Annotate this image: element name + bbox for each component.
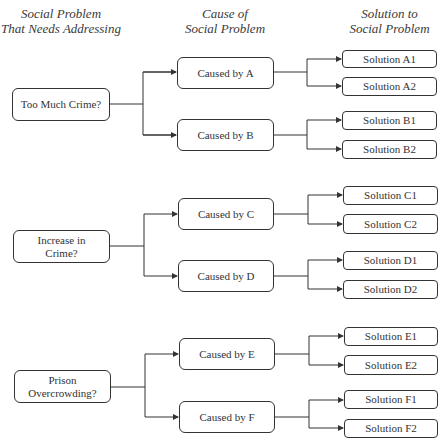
solution-box-a2[interactable]: Solution A2 bbox=[342, 77, 437, 96]
cause-box-d[interactable]: Caused by D bbox=[178, 260, 274, 292]
cause-box-a[interactable]: Caused by A bbox=[177, 57, 274, 89]
solution-label: Solution F2 bbox=[365, 422, 417, 435]
solution-label: Solution C2 bbox=[364, 218, 417, 231]
solution-box-f2[interactable]: Solution F2 bbox=[344, 419, 438, 438]
solution-box-f1[interactable]: Solution F1 bbox=[344, 390, 438, 409]
cause-label: Caused by B bbox=[197, 129, 253, 142]
cause-label: Caused by F bbox=[200, 411, 255, 424]
solution-label: Solution D2 bbox=[364, 283, 417, 296]
solution-box-c1[interactable]: Solution C1 bbox=[343, 186, 438, 205]
solution-label: Solution C1 bbox=[364, 189, 417, 202]
cause-label: Caused by E bbox=[199, 348, 255, 361]
solution-label: Solution A2 bbox=[363, 80, 416, 93]
cause-label: Caused by D bbox=[198, 270, 255, 283]
problem-box-too-much-crime[interactable]: Too Much Crime? bbox=[12, 88, 110, 121]
problem-label: Too Much Crime? bbox=[21, 98, 102, 111]
solution-box-b1[interactable]: Solution B1 bbox=[342, 111, 437, 130]
solution-label: Solution B1 bbox=[363, 114, 416, 127]
solution-label: Solution E1 bbox=[365, 330, 417, 343]
solution-label: Solution A1 bbox=[363, 53, 416, 66]
cause-box-b[interactable]: Caused by B bbox=[177, 119, 274, 151]
solution-label: Solution E2 bbox=[365, 359, 417, 372]
problem-label: Prison Overcrowding? bbox=[23, 374, 103, 400]
solution-label: Solution B2 bbox=[363, 143, 416, 156]
solution-label: Solution F1 bbox=[365, 393, 417, 406]
problem-box-prison-overcrowding[interactable]: Prison Overcrowding? bbox=[14, 370, 111, 403]
problem-box-increase-in-crime[interactable]: Increase in Crime? bbox=[13, 230, 110, 263]
cause-box-c[interactable]: Caused by C bbox=[178, 198, 274, 230]
solution-box-e2[interactable]: Solution E2 bbox=[344, 355, 438, 375]
solution-box-a1[interactable]: Solution A1 bbox=[342, 50, 437, 68]
cause-label: Caused by C bbox=[198, 208, 254, 221]
solution-label: Solution D1 bbox=[364, 254, 417, 267]
cause-box-f[interactable]: Caused by F bbox=[179, 401, 275, 433]
solution-box-c2[interactable]: Solution C2 bbox=[343, 214, 438, 234]
cause-box-e[interactable]: Caused by E bbox=[179, 338, 275, 370]
solution-box-b2[interactable]: Solution B2 bbox=[342, 140, 437, 159]
solution-box-d1[interactable]: Solution D1 bbox=[343, 251, 438, 270]
solution-box-e1[interactable]: Solution E1 bbox=[344, 327, 438, 346]
problem-label: Increase in Crime? bbox=[32, 234, 92, 260]
solution-box-d2[interactable]: Solution D2 bbox=[343, 280, 438, 299]
cause-label: Caused by A bbox=[197, 67, 253, 80]
